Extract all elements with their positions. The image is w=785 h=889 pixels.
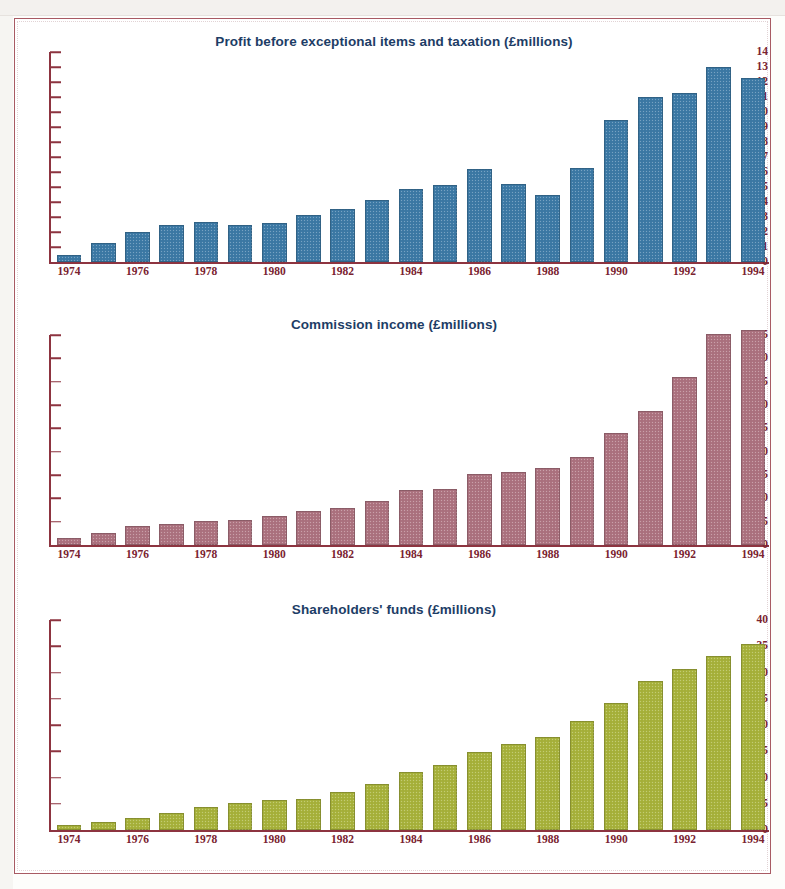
x-tick-label: 1990: [605, 833, 628, 845]
bar-shareholders-1989: [570, 721, 595, 830]
y-tick-mark: [50, 672, 61, 674]
bar-shareholders-1983: [365, 784, 390, 830]
scan-top-margin: [0, 0, 785, 16]
bar-commission-1983: [365, 501, 390, 545]
y-tick-mark: [50, 171, 61, 173]
x-tick-label: 1984: [400, 548, 423, 560]
bar-shareholders-1986: [467, 752, 492, 830]
x-tick-label: 1986: [468, 548, 491, 560]
bar-shareholders-1982: [330, 792, 355, 830]
bar-shareholders-1975: [91, 822, 116, 830]
x-tick-label: 1976: [126, 265, 149, 277]
bar-shareholders-1977: [159, 813, 184, 830]
bar-profit-1986: [467, 169, 492, 262]
y-tick-mark: [50, 231, 61, 233]
x-tick-label: 1980: [263, 548, 286, 560]
bar-profit-1983: [365, 200, 390, 262]
bar-shareholders-1985: [433, 765, 458, 830]
y-tick-mark: [50, 521, 61, 523]
bar-profit-1984: [399, 189, 424, 263]
y-tick-mark: [50, 451, 61, 453]
bar-commission-1986: [467, 474, 492, 545]
x-tick-label: 1988: [536, 548, 559, 560]
chart-title-commission: Commission income (£millions): [20, 315, 768, 335]
x-tick-label: 1994: [741, 548, 764, 560]
bar-profit-1994: [741, 78, 766, 263]
bar-commission-1981: [296, 511, 321, 545]
bar-profit-1992: [672, 93, 697, 263]
bar-profit-1980: [262, 223, 287, 262]
bar-profit-1988: [535, 195, 560, 263]
x-tick-label: 1992: [673, 833, 696, 845]
x-tick-label: 1980: [263, 833, 286, 845]
bar-commission-1988: [535, 468, 560, 545]
y-axis-line-commission: [49, 335, 51, 545]
y-tick-mark: [50, 51, 61, 53]
plot-area-commission: 0510152025303540451974197619781980198219…: [20, 335, 768, 567]
x-tick-label: 1976: [126, 548, 149, 560]
bar-profit-1978: [194, 222, 219, 263]
x-tick-label: 1974: [58, 548, 81, 560]
x-tick-label: 1974: [58, 833, 81, 845]
x-tick-label: 1982: [331, 265, 354, 277]
bar-profit-1981: [296, 215, 321, 262]
y-tick-mark: [50, 66, 61, 68]
x-tick-label: 1978: [194, 265, 217, 277]
y-tick-mark: [50, 646, 61, 648]
bar-shareholders-1991: [638, 681, 663, 830]
chart-block-profit: Profit before exceptional items and taxa…: [20, 32, 768, 284]
y-tick-mark: [50, 156, 61, 158]
bar-profit-1976: [125, 232, 150, 262]
bar-profit-1993: [706, 67, 731, 262]
x-tick-label: 1990: [605, 548, 628, 560]
chart-title-profit: Profit before exceptional items and taxa…: [20, 32, 768, 52]
bar-commission-1992: [672, 377, 697, 545]
y-tick-mark: [50, 619, 61, 621]
y-tick-label: 40: [757, 614, 769, 626]
x-tick-label: 1982: [331, 548, 354, 560]
y-tick-label: 14: [757, 46, 769, 58]
bar-commission-1985: [433, 489, 458, 545]
x-tick-label: 1994: [741, 833, 764, 845]
bar-shareholders-1987: [501, 744, 526, 830]
bar-profit-1991: [638, 97, 663, 262]
x-axis-line-profit: [49, 262, 769, 264]
bar-shareholders-1978: [194, 807, 219, 830]
bar-profit-1979: [228, 225, 253, 263]
y-tick-mark: [50, 334, 61, 336]
bar-shareholders-1988: [535, 737, 560, 830]
y-tick-mark: [50, 186, 61, 188]
y-tick-mark: [50, 498, 61, 500]
bar-commission-1980: [262, 516, 287, 545]
bar-profit-1974: [57, 255, 82, 263]
bar-commission-1984: [399, 490, 424, 545]
bar-shareholders-1992: [672, 669, 697, 830]
x-tick-label: 1978: [194, 548, 217, 560]
page-root: Profit before exceptional items and taxa…: [0, 0, 785, 889]
y-tick-mark: [50, 141, 61, 143]
bar-shareholders-1993: [706, 656, 731, 830]
bar-profit-1982: [330, 209, 355, 262]
bar-profit-1977: [159, 225, 184, 263]
x-tick-label: 1984: [400, 833, 423, 845]
bar-profit-1975: [91, 243, 116, 263]
y-tick-mark: [50, 201, 61, 203]
x-tick-label: 1978: [194, 833, 217, 845]
x-tick-label: 1974: [58, 265, 81, 277]
x-tick-label: 1984: [400, 265, 423, 277]
bar-commission-1974: [57, 538, 82, 545]
chart-block-commission: Commission income (£millions) 0510152025…: [20, 315, 768, 567]
y-tick-mark: [50, 216, 61, 218]
bar-commission-1994: [741, 330, 766, 545]
plot-area-profit: 0123456789101112131419741976197819801982…: [20, 52, 768, 284]
chart-block-shareholders: Shareholders' funds (£millions) 05101520…: [20, 600, 768, 852]
bar-profit-1990: [604, 120, 629, 262]
bar-commission-1989: [570, 457, 595, 545]
y-tick-mark: [50, 96, 61, 98]
bar-commission-1976: [125, 526, 150, 545]
y-tick-mark: [50, 246, 61, 248]
y-tick-mark: [50, 724, 61, 726]
x-tick-label: 1990: [605, 265, 628, 277]
y-tick-mark: [50, 404, 61, 406]
x-tick-label: 1992: [673, 265, 696, 277]
